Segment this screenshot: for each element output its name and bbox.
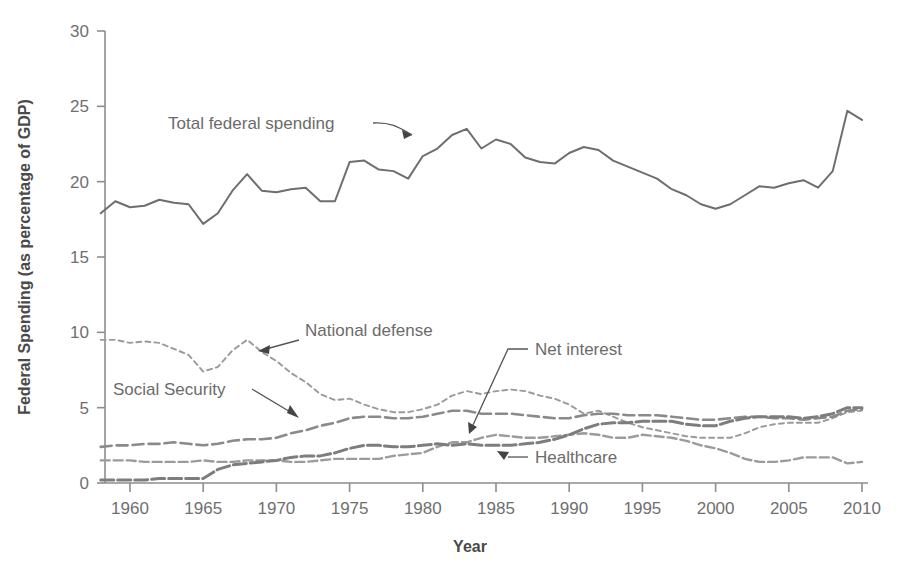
- y-tick-label-25: 25: [70, 97, 89, 116]
- annotation-label-social-security: Social Security: [113, 380, 226, 399]
- x-tick-label-2010: 2010: [843, 499, 881, 518]
- x-axis-title: Year: [453, 538, 487, 555]
- x-tick-label-1965: 1965: [184, 499, 222, 518]
- y-tick-label-15: 15: [70, 248, 89, 267]
- x-tick-label-2000: 2000: [697, 499, 735, 518]
- y-axis-title: Federal Spending (as percentage of GDP): [16, 99, 33, 415]
- x-tick-label-1990: 1990: [550, 499, 588, 518]
- annotation-label-total-federal-spending: Total federal spending: [168, 114, 334, 133]
- x-tick-label-1960: 1960: [111, 499, 149, 518]
- y-tick-label-20: 20: [70, 173, 89, 192]
- x-tick-label-1980: 1980: [404, 499, 442, 518]
- x-tick-label-1985: 1985: [477, 499, 515, 518]
- annotation-label-national-defense: National defense: [305, 321, 433, 340]
- x-tick-label-1975: 1975: [331, 499, 369, 518]
- x-tick-label-1995: 1995: [623, 499, 661, 518]
- annotation-label-net-interest: Net interest: [535, 340, 622, 359]
- y-tick-label-0: 0: [80, 474, 89, 493]
- annotation-label-healthcare: Healthcare: [535, 448, 617, 467]
- chart-background: [0, 0, 907, 576]
- x-tick-label-1970: 1970: [257, 499, 295, 518]
- chart-figure: 051015202530 196019651970197519801985199…: [0, 0, 907, 576]
- federal-spending-line-chart: 051015202530 196019651970197519801985199…: [0, 0, 907, 576]
- y-tick-label-10: 10: [70, 323, 89, 342]
- y-tick-label-30: 30: [70, 22, 89, 41]
- y-tick-label-5: 5: [80, 399, 89, 418]
- x-tick-label-2005: 2005: [770, 499, 808, 518]
